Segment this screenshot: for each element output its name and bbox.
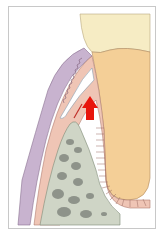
periodontal-diagram xyxy=(0,0,161,239)
tooth-crown xyxy=(80,14,150,53)
